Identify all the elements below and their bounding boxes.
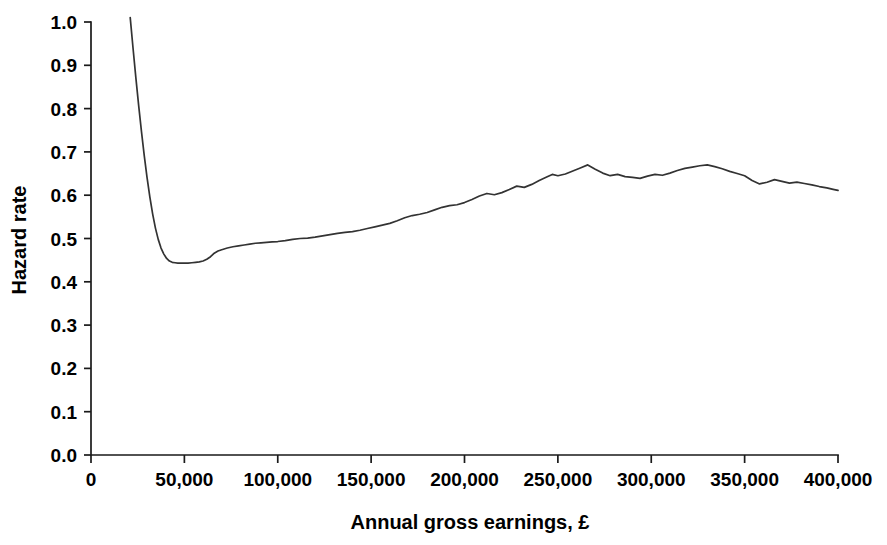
y-tick-label: 1.0 [51, 12, 77, 33]
x-axis-tick-marks [91, 455, 838, 463]
y-tick-label: 0.2 [51, 358, 77, 379]
y-tick-label: 0.0 [51, 445, 77, 466]
y-tick-label: 0.9 [51, 55, 77, 76]
hazard-rate-series-line [130, 18, 838, 264]
x-tick-label: 150,000 [337, 469, 406, 490]
x-tick-label: 350,000 [710, 469, 779, 490]
y-tick-label: 0.7 [51, 142, 77, 163]
y-tick-label: 0.5 [51, 229, 78, 250]
y-axis-tick-marks [84, 22, 91, 455]
x-axis-tick-labels: 050,000100,000150,000200,000250,000300,0… [86, 469, 873, 490]
x-tick-label: 400,000 [804, 469, 873, 490]
x-tick-label: 0 [86, 469, 97, 490]
y-tick-label: 0.3 [51, 315, 77, 336]
x-axis-title: Annual gross earnings, £ [351, 511, 590, 533]
y-tick-label: 0.4 [51, 272, 78, 293]
x-tick-label: 250,000 [524, 469, 593, 490]
y-axis-tick-labels: 0.00.10.20.30.40.50.60.70.80.91.0 [51, 12, 78, 466]
x-tick-label: 200,000 [430, 469, 499, 490]
hazard-rate-chart-figure: 0.00.10.20.30.40.50.60.70.80.91.0 050,00… [0, 0, 887, 545]
y-tick-label: 0.8 [51, 99, 77, 120]
x-tick-label: 50,000 [155, 469, 213, 490]
hazard-rate-line-chart: 0.00.10.20.30.40.50.60.70.80.91.0 050,00… [0, 0, 887, 545]
y-axis-title: Hazard rate [8, 186, 30, 295]
axis-lines [91, 22, 838, 455]
x-tick-label: 100,000 [243, 469, 312, 490]
y-tick-label: 0.6 [51, 185, 77, 206]
y-tick-label: 0.1 [51, 402, 78, 423]
x-tick-label: 300,000 [617, 469, 686, 490]
